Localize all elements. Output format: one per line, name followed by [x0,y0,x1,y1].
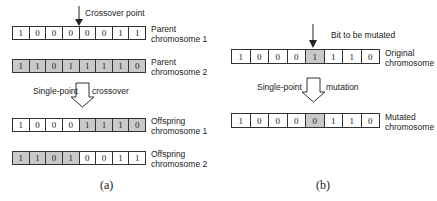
bit-cell: 0 [80,152,97,164]
bit-cell: 0 [129,60,145,72]
bit-cell: 0 [288,50,307,63]
bit-cell: 1 [13,152,30,164]
bit-cell: 0 [80,27,97,39]
crossover-label: crossover [92,86,129,96]
bit-cell: 0 [251,50,270,63]
mutated-chromosome: 1 0 0 0 0 1 1 0 [231,113,380,128]
bit-cell: 0 [269,114,288,127]
bit-cell: 1 [13,27,30,39]
parent-chromosome-2-label: Parent chromosome 2 [151,57,207,77]
parent-chromosome-1: 1 0 0 0 0 0 1 1 [12,26,146,40]
bit-cell: 0 [46,60,63,72]
bit-cell: 0 [46,27,63,39]
bit-cell: 1 [96,60,113,72]
bit-cell: 1 [343,50,362,63]
bit-cell: 1 [80,119,97,131]
bit-cell: 0 [288,114,307,127]
offspring-chromosome-2: 1 1 0 1 0 0 1 1 [12,151,146,165]
bit-cell: 0 [46,119,63,131]
bit-cell: 1 [232,50,251,63]
bit-cell: 1 [232,114,251,127]
offspring-chromosome-1: 1 0 0 0 1 1 1 0 [12,118,146,132]
single-point-label: Single-point [257,82,302,92]
bit-cell: 0 [269,50,288,63]
bit-cell: 0 [63,27,80,39]
parent-chromosome-1-label: Parent chromosome 1 [151,24,207,44]
bit-cell: 0 [46,152,63,164]
bit-cell: 0 [129,119,145,131]
bit-cell: 0 [96,27,113,39]
bit-cell: 0 [362,114,380,127]
single-point-label: Single-point [33,86,78,96]
crossover-point-arrow-icon [75,6,83,26]
bit-cell: 0 [362,50,380,63]
offspring-chromosome-2-label: Offspring chromosome 2 [151,149,207,169]
bit-cell: 1 [63,60,80,72]
panel-a-caption: (a) [100,178,113,193]
bit-cell: 1 [113,60,130,72]
bit-cell: 1 [113,119,130,131]
parent-chromosome-2: 1 1 0 1 1 1 1 0 [12,59,146,73]
mutated-bit-cell: 1 [306,50,325,63]
mutated-chromosome-label: Mutated chromosome [385,112,434,132]
bit-cell: 1 [13,60,30,72]
original-chromosome-label: Original chromosome [385,48,434,68]
bit-cell: 1 [96,119,113,131]
bit-cell: 1 [325,50,344,63]
mutation-label: mutation [326,82,359,92]
mutated-bit-cell: 0 [306,114,325,127]
panel-b-caption: (b) [316,178,330,193]
bit-cell: 0 [96,152,113,164]
bit-to-be-mutated-label: Bit to be mutated [331,30,395,40]
bit-cell: 0 [63,119,80,131]
bit-cell: 1 [30,152,47,164]
bit-cell: 1 [325,114,344,127]
mutation-point-arrow-icon [309,24,317,48]
bit-cell: 1 [80,60,97,72]
bit-cell: 1 [30,60,47,72]
bit-cell: 1 [13,119,30,131]
bit-cell: 0 [30,27,47,39]
offspring-chromosome-1-label: Offspring chromosome 1 [151,116,207,136]
bit-cell: 1 [343,114,362,127]
bit-cell: 1 [129,152,145,164]
hollow-down-arrow-mutation-icon [302,78,325,102]
crossover-point-label: Crossover point [85,8,145,18]
bit-cell: 0 [30,119,47,131]
bit-cell: 1 [129,27,145,39]
original-chromosome: 1 0 0 0 1 1 1 0 [231,49,380,64]
bit-cell: 1 [63,152,80,164]
bit-cell: 0 [251,114,270,127]
bit-cell: 1 [113,152,130,164]
bit-cell: 1 [113,27,130,39]
